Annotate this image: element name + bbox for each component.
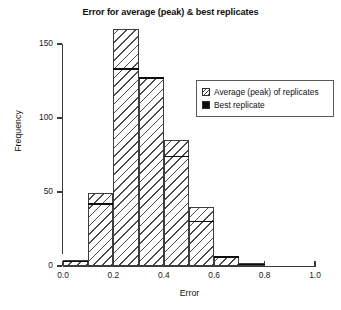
histogram-bar-average [164, 140, 189, 266]
x-tick-label: 0.2 [93, 270, 133, 280]
legend-label-best: Best replicate [214, 100, 265, 110]
histogram-bar-best [88, 203, 113, 205]
legend-item-best: Best replicate [202, 98, 328, 111]
y-tick [57, 117, 62, 118]
histogram-bar-best [113, 68, 138, 70]
y-tick-label: 50 [13, 186, 53, 196]
x-tick-label: 1.0 [295, 270, 335, 280]
hatched-square-icon [202, 88, 210, 96]
histogram-bar-best [214, 256, 239, 258]
y-axis-line [62, 44, 63, 254]
y-tick-label: 150 [13, 38, 53, 48]
histogram-figure: Error for average (peak) & best replicat… [0, 0, 341, 310]
x-tick-label: 0.0 [43, 270, 83, 280]
y-tick [57, 265, 62, 266]
legend-label-average: Average (peak) of replicates [214, 87, 319, 97]
histogram-bar-average [139, 77, 164, 266]
legend-item-average: Average (peak) of replicates [202, 85, 328, 98]
y-tick-label: 0 [13, 260, 53, 270]
chart-title: Error for average (peak) & best replicat… [0, 7, 341, 17]
x-tick-label: 0.6 [194, 270, 234, 280]
x-tick-label: 0.8 [245, 270, 285, 280]
histogram-bar-average [189, 207, 214, 266]
black-square-icon [202, 101, 210, 109]
x-axis-line [63, 266, 316, 267]
y-axis-label: Frequency [13, 86, 23, 176]
histogram-bar-average [113, 29, 138, 266]
histogram-bar-best [164, 156, 189, 158]
x-axis-label: Error [63, 288, 316, 298]
chart-legend: Average (peak) of replicates Best replic… [196, 80, 334, 117]
x-tick-label: 0.4 [144, 270, 184, 280]
y-tick [57, 43, 62, 44]
histogram-bar-best [239, 264, 264, 266]
x-tick [314, 261, 315, 266]
histogram-bar-best [189, 221, 214, 223]
histogram-bar-best [63, 261, 88, 263]
histogram-bar-best [139, 77, 164, 79]
y-tick [57, 191, 62, 192]
